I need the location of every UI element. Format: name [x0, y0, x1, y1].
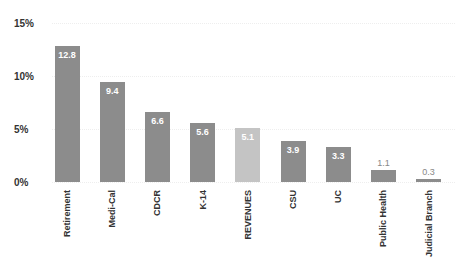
gridline — [52, 182, 455, 183]
x-tick-label: Public Health — [378, 190, 388, 247]
gridline — [52, 23, 455, 24]
bar-value-label: 12.8 — [55, 50, 80, 60]
bar-value-label: 3.3 — [326, 151, 351, 161]
bar — [416, 179, 441, 182]
bar-value-label: 1.1 — [371, 158, 396, 168]
bar-value-label: 5.6 — [190, 127, 215, 137]
y-tick-label: 0% — [14, 177, 40, 188]
y-tick-label: 15% — [14, 18, 40, 29]
gridline — [52, 76, 455, 77]
x-tick-label: REVENUES — [242, 190, 252, 240]
x-tick-label: Medi-Cal — [107, 190, 117, 228]
y-tick-label: 5% — [14, 124, 40, 135]
bar-value-label: 5.1 — [235, 132, 260, 142]
bar-value-label: 9.4 — [100, 86, 125, 96]
x-tick-label: CSU — [288, 190, 298, 209]
bar-value-label: 6.6 — [145, 116, 170, 126]
x-tick-label: Judicial Branch — [424, 190, 434, 257]
x-tick-label: UC — [333, 190, 343, 203]
bar — [55, 46, 80, 182]
bar-value-label: 0.3 — [416, 167, 441, 177]
x-tick-label: Retirement — [62, 190, 72, 237]
bar — [371, 170, 396, 182]
bar — [100, 82, 125, 182]
bar-value-label: 3.9 — [281, 145, 306, 155]
x-tick-label: K-14 — [197, 190, 207, 210]
x-tick-label: CDCR — [152, 190, 162, 216]
y-tick-label: 10% — [14, 71, 40, 82]
